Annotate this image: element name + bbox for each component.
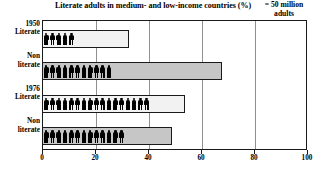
gridline (202, 21, 203, 149)
row-label-line2: literate (0, 126, 40, 134)
person-icon (62, 65, 67, 78)
row-label-3: 1976Literate (0, 85, 40, 102)
x-tick-label: 80 (243, 154, 265, 163)
pictogram-group (43, 31, 75, 47)
person-icon (56, 65, 61, 78)
person-icon (50, 32, 55, 45)
gridline (255, 21, 256, 149)
person-icon (44, 97, 49, 110)
person-icon (119, 130, 124, 143)
pictogram-group (43, 63, 113, 79)
bar-2 (42, 62, 222, 80)
person-icon (125, 97, 130, 110)
x-tick-label: 100 (296, 154, 318, 163)
row-label-line2: Literate (0, 28, 40, 36)
person-icon (119, 97, 124, 110)
person-icon (106, 130, 111, 143)
person-icon (100, 130, 105, 143)
row-label-4: Nonliterate (0, 117, 40, 134)
person-icon (113, 130, 118, 143)
person-icon (56, 130, 61, 143)
person-icon (44, 65, 49, 78)
person-icon (87, 65, 92, 78)
person-icon (106, 97, 111, 110)
row-label-2: Nonliterate (0, 52, 40, 69)
person-icon (94, 65, 99, 78)
person-icon (81, 130, 86, 143)
chart-figure: Literate adults in medium- and low-incom… (0, 0, 320, 172)
person-icon (62, 32, 67, 45)
person-icon (87, 130, 92, 143)
person-icon (100, 97, 105, 110)
person-icon (62, 97, 67, 110)
person-icon (56, 32, 61, 45)
person-icon (69, 130, 74, 143)
person-icon (69, 97, 74, 110)
person-icon (44, 130, 49, 143)
x-tick-label: 0 (31, 154, 53, 163)
person-icon (75, 130, 80, 143)
legend-unit-line1: = 50 million (251, 0, 317, 9)
person-icon (69, 65, 74, 78)
row-label-line2: literate (0, 61, 40, 69)
person-icon (56, 97, 61, 110)
person-icon (144, 97, 149, 110)
chart-title: Literate adults in medium- and low-incom… (46, 1, 260, 11)
person-icon (94, 130, 99, 143)
row-label-line2: Literate (0, 93, 40, 101)
person-icon (81, 97, 86, 110)
pictogram-group (43, 96, 150, 112)
row-label-1: 1950Literate (0, 20, 40, 37)
person-icon (62, 130, 67, 143)
person-icon (75, 97, 80, 110)
legend-unit-line2: adults (251, 9, 317, 18)
person-icon (44, 32, 49, 45)
person-icon (50, 130, 55, 143)
bar-3 (42, 95, 185, 113)
person-icon (94, 97, 99, 110)
person-icon (69, 32, 74, 45)
person-icon (138, 97, 143, 110)
chart-legend: = 50 million adults (251, 0, 317, 18)
person-icon (113, 97, 118, 110)
person-icon (50, 97, 55, 110)
person-icon (50, 65, 55, 78)
person-icon (81, 65, 86, 78)
bar-1 (42, 30, 129, 48)
person-icon (106, 65, 111, 78)
bar-4 (42, 127, 172, 145)
person-icon (87, 97, 92, 110)
person-icon (131, 97, 136, 110)
pictogram-group (43, 128, 125, 144)
x-tick-label: 60 (190, 154, 212, 163)
x-tick-label: 40 (137, 154, 159, 163)
person-icon (100, 65, 105, 78)
x-tick-label: 20 (84, 154, 106, 163)
person-icon (75, 65, 80, 78)
